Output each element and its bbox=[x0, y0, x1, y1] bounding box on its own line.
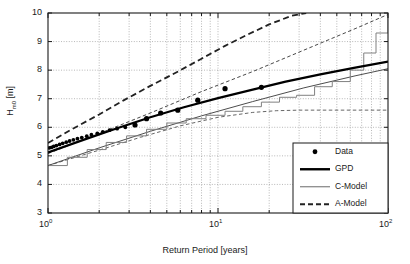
data-point bbox=[61, 141, 65, 145]
y-axis-tick-label: 4 bbox=[16, 178, 42, 188]
data-point bbox=[195, 98, 200, 103]
y-axis-tick-label: 3 bbox=[16, 207, 42, 217]
legend-label: C-Model bbox=[335, 181, 367, 191]
y-axis-tick-label: 7 bbox=[16, 93, 42, 103]
y-axis-tick-label: 6 bbox=[16, 121, 42, 131]
y-axis-label-text: Hm0 [m] bbox=[5, 86, 15, 116]
data-point bbox=[175, 108, 180, 113]
x-axis-tick-label: 101 bbox=[209, 218, 222, 229]
data-point bbox=[132, 122, 137, 127]
chart-plot-area bbox=[0, 0, 410, 264]
legend-marker-data bbox=[313, 149, 318, 154]
data-point bbox=[259, 85, 264, 90]
y-axis-tick-label: 5 bbox=[16, 150, 42, 160]
data-point bbox=[123, 125, 127, 129]
data-point bbox=[101, 130, 105, 134]
data-point bbox=[80, 136, 84, 140]
y-axis-tick-label: 9 bbox=[16, 36, 42, 46]
data-point bbox=[108, 128, 112, 132]
y-axis-tick-label: 10 bbox=[16, 7, 42, 17]
legend-label: A-Model bbox=[335, 198, 367, 208]
data-point bbox=[144, 116, 149, 121]
data-point bbox=[115, 127, 119, 131]
data-point bbox=[68, 139, 72, 143]
data-point bbox=[90, 133, 94, 137]
data-point bbox=[71, 138, 75, 142]
data-point bbox=[158, 110, 163, 115]
legend-label: Data bbox=[335, 146, 353, 156]
x-axis-tick-label: 102 bbox=[379, 218, 392, 229]
x-axis-tick-label: 100 bbox=[39, 218, 52, 229]
data-point bbox=[76, 137, 80, 141]
chart-figure: Return Period [years] Hm0 [m] 3456789101… bbox=[0, 0, 410, 264]
data-point bbox=[85, 134, 89, 138]
y-axis-tick-label: 8 bbox=[16, 64, 42, 74]
legend-label: GPD bbox=[335, 163, 353, 173]
data-point bbox=[64, 140, 68, 144]
x-axis-label: Return Period [years] bbox=[0, 245, 410, 255]
data-point bbox=[95, 131, 99, 135]
data-point bbox=[222, 86, 227, 91]
